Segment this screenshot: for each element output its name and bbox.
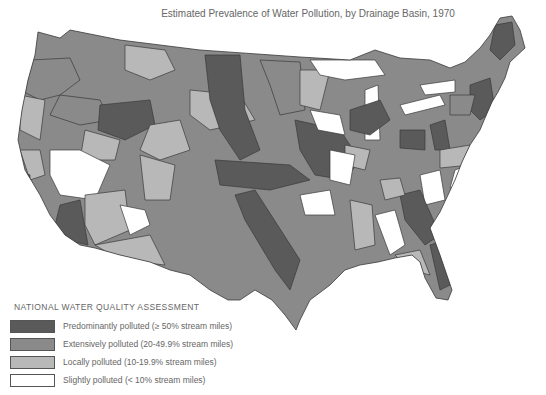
- legend-title: NATIONAL WATER QUALITY ASSESSMENT: [14, 302, 233, 312]
- legend-item-local: Locally polluted (10-19.9% stream miles): [10, 353, 233, 371]
- legend-label: Slightly polluted (< 10% stream miles): [63, 375, 205, 385]
- legend-item-predominant: Predominantly polluted (≥ 50% stream mil…: [10, 317, 233, 335]
- swatch-extensive: [10, 338, 55, 351]
- legend-label: Extensively polluted (20-49.9% stream mi…: [63, 339, 233, 349]
- swatch-predominant: [10, 320, 55, 333]
- legend-label: Predominantly polluted (≥ 50% stream mil…: [63, 321, 232, 331]
- legend-item-extensive: Extensively polluted (20-49.9% stream mi…: [10, 335, 233, 353]
- swatch-local: [10, 356, 55, 369]
- legend-label: Locally polluted (10-19.9% stream miles): [63, 357, 217, 367]
- legend: NATIONAL WATER QUALITY ASSESSMENT Predom…: [10, 302, 233, 389]
- swatch-slight: [10, 374, 55, 387]
- legend-item-slight: Slightly polluted (< 10% stream miles): [10, 371, 233, 389]
